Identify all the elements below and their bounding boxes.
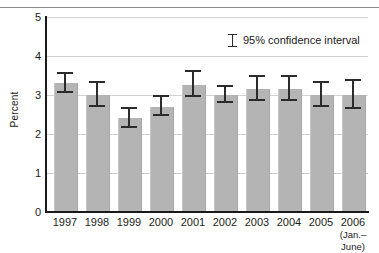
error-bar-cap — [185, 70, 201, 72]
legend: 95% confidence interval — [228, 32, 360, 48]
error-bar-icon — [228, 33, 237, 48]
bar — [54, 83, 78, 212]
bar-group — [81, 17, 113, 212]
error-bar-cap — [153, 95, 169, 97]
error-bar-cap — [121, 107, 137, 109]
error-bar — [320, 83, 322, 106]
bar — [214, 95, 238, 212]
error-bar-cap — [249, 99, 265, 101]
y-axis-line — [45, 16, 47, 213]
error-bar-cap — [345, 107, 361, 109]
x-axis-line — [45, 211, 369, 213]
bar — [278, 89, 302, 212]
bar-group — [49, 17, 81, 212]
x-tick-label: 2006(Jan.–June) — [332, 216, 374, 253]
error-bar-cap — [345, 79, 361, 81]
error-bar — [192, 72, 194, 97]
bar-group — [113, 17, 145, 212]
y-tick-label: 0 — [15, 207, 41, 218]
error-bar-cap — [153, 114, 169, 116]
error-bar — [288, 77, 290, 100]
bar — [118, 118, 142, 212]
error-bar-cap — [89, 105, 105, 107]
error-bar — [352, 81, 354, 108]
figure-top-rule — [0, 7, 379, 8]
bar-group — [177, 17, 209, 212]
error-bar-cap — [249, 75, 265, 77]
bar-group — [145, 17, 177, 212]
error-bar — [96, 83, 98, 106]
error-bar-cap — [281, 99, 297, 101]
y-axis-title: Percent — [9, 80, 20, 140]
bar — [246, 89, 270, 212]
bar — [86, 95, 110, 212]
bar — [182, 85, 206, 212]
error-bar-cap — [57, 72, 73, 74]
y-tick-label: 4 — [15, 51, 41, 62]
chart-figure: 012345 Percent 1997199819992000200120022… — [0, 0, 379, 253]
error-bar-cap — [217, 85, 233, 87]
bar — [150, 107, 174, 212]
error-bar-cap — [57, 91, 73, 93]
error-bar — [256, 77, 258, 100]
error-bar-cap — [89, 81, 105, 83]
error-bar-cap — [121, 126, 137, 128]
error-bar-cap — [217, 101, 233, 103]
error-bar-cap — [313, 105, 329, 107]
y-tick-label: 1 — [15, 168, 41, 179]
error-bar-cap — [313, 81, 329, 83]
legend-label: 95% confidence interval — [243, 34, 360, 46]
error-bar-cap — [185, 95, 201, 97]
bar — [342, 95, 366, 212]
error-bar-cap — [281, 75, 297, 77]
bar — [310, 95, 334, 212]
y-tick-label: 5 — [15, 12, 41, 23]
x-tick-sublabel: (Jan.–June) — [332, 229, 374, 253]
